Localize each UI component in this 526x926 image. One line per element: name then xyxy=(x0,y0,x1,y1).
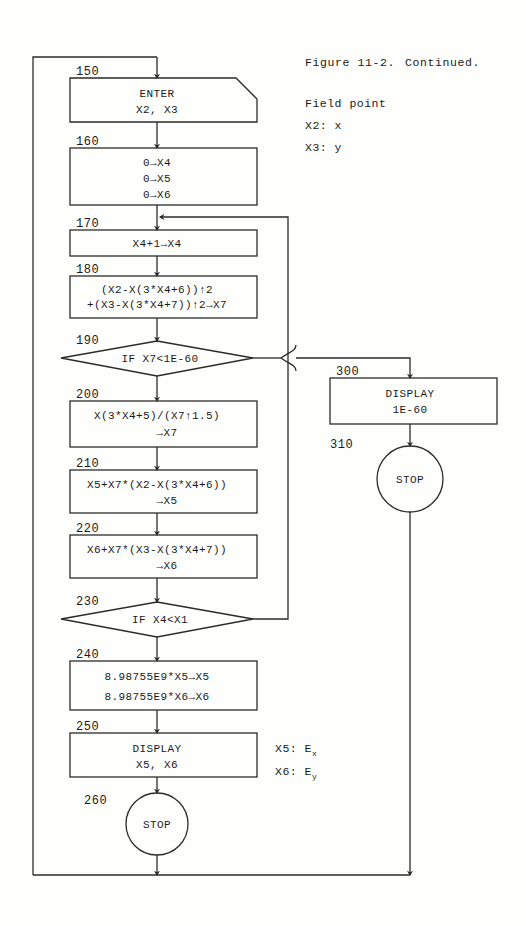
node-310-label: STOP xyxy=(396,474,424,486)
node-240-line-2: 8.98755E9*X6→X6 xyxy=(104,691,209,703)
step-number-150: 150 xyxy=(76,65,99,79)
annotation-x5: X5: Ex xyxy=(275,742,317,758)
step-number-260: 260 xyxy=(84,794,107,808)
node-220[interactable]: 220 X6+X7*(X3-X(3*X4+7)) →X6 xyxy=(70,522,257,578)
node-300-shape xyxy=(330,378,497,424)
step-number-230: 230 xyxy=(76,595,99,609)
node-250-line-2: X5, X6 xyxy=(136,759,178,771)
node-210-line-1: X5+X7*(X2-X(3*X4+6)) xyxy=(87,479,227,491)
node-260-label: STOP xyxy=(143,819,171,831)
node-150-line-2: X2, X3 xyxy=(136,104,178,116)
flowchart-canvas: Figure 11-2. Continued. Field point X2: … xyxy=(0,0,526,926)
annotation-x6: X6: Ey xyxy=(275,765,317,781)
node-180-line-1: (X2-X(3*X4+6))↑2 xyxy=(101,284,213,296)
step-number-220: 220 xyxy=(76,522,99,536)
node-240-line-1: 8.98755E9*X5→X5 xyxy=(104,671,209,683)
node-180[interactable]: 180 (X2-X(3*X4+6))↑2 +(X3-X(3*X4+7))↑2→X… xyxy=(70,263,257,318)
node-300-line-2: 1E-60 xyxy=(392,404,427,416)
step-number-200: 200 xyxy=(76,388,99,402)
legend-heading: Field point xyxy=(305,97,386,110)
node-210-line-2: →X5 xyxy=(156,495,177,507)
step-number-310: 310 xyxy=(330,438,353,452)
node-170[interactable]: 170 X4+1→X4 xyxy=(70,217,257,256)
step-number-160: 160 xyxy=(76,135,99,149)
step-number-180: 180 xyxy=(76,263,99,277)
caption-block: Figure 11-2. Continued. xyxy=(305,56,480,69)
node-150[interactable]: 150 ENTER X2, X3 xyxy=(70,65,257,122)
node-160-line-1: 0→X4 xyxy=(143,157,171,169)
node-240[interactable]: 240 8.98755E9*X5→X5 8.98755E9*X6→X6 xyxy=(70,648,257,710)
legend-item-x2: X2: x xyxy=(305,119,342,132)
step-number-240: 240 xyxy=(76,648,99,662)
step-number-170: 170 xyxy=(76,217,99,231)
node-160-line-2: 0→X5 xyxy=(143,173,171,185)
node-160[interactable]: 160 0→X4 0→X5 0→X6 xyxy=(70,135,257,205)
legend-item-x3: X3: y xyxy=(305,141,342,154)
node-220-line-1: X6+X7*(X3-X(3*X4+7)) xyxy=(87,544,227,556)
node-310[interactable]: 310 STOP xyxy=(330,438,443,512)
step-number-190: 190 xyxy=(76,334,99,348)
node-210[interactable]: 210 X5+X7*(X2-X(3*X4+6)) →X5 xyxy=(70,457,257,513)
step-number-300: 300 xyxy=(336,365,359,379)
node-260[interactable]: 260 STOP xyxy=(84,793,188,855)
node-230-condition: IF X4<X1 xyxy=(132,614,188,626)
node-180-shape xyxy=(70,276,257,318)
node-250-line-1: DISPLAY xyxy=(132,743,181,755)
output-annotations: X5: Ex X6: Ey xyxy=(275,742,317,781)
node-190-condition: IF X7<1E-60 xyxy=(121,353,198,365)
node-220-line-2: →X6 xyxy=(156,560,177,572)
step-number-210: 210 xyxy=(76,457,99,471)
node-200-line-2: →X7 xyxy=(156,427,177,439)
node-180-line-2: +(X3-X(3*X4+7))↑2→X7 xyxy=(87,299,227,311)
node-300[interactable]: 300 DISPLAY 1E-60 xyxy=(330,365,497,424)
figure-caption-number: Figure 11-2. xyxy=(305,56,395,69)
figure-caption-continued: Continued. xyxy=(405,56,480,69)
legend-field-point: Field point X2: x X3: y xyxy=(305,97,386,154)
flowchart-page: Figure 11-2. Continued. Field point X2: … xyxy=(0,0,526,926)
node-160-line-3: 0→X6 xyxy=(143,189,171,201)
node-250[interactable]: 250 DISPLAY X5, X6 xyxy=(70,720,257,777)
node-150-line-1: ENTER xyxy=(139,88,174,100)
node-300-line-1: DISPLAY xyxy=(385,388,434,400)
node-200[interactable]: 200 X(3*X4+5)/(X7↑1.5) →X7 xyxy=(70,388,257,447)
node-200-line-1: X(3*X4+5)/(X7↑1.5) xyxy=(94,410,220,422)
step-number-250: 250 xyxy=(76,720,99,734)
node-200-shape xyxy=(70,401,257,447)
node-170-line-1: X4+1→X4 xyxy=(132,238,181,250)
